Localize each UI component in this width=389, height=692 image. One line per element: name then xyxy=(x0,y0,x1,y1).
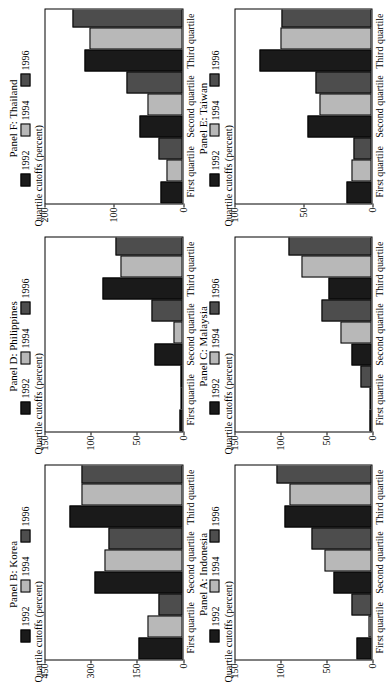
x-tick-label: First quartile xyxy=(372,367,385,432)
bar-1994 xyxy=(147,615,181,637)
x-tick-label: First quartile xyxy=(183,367,196,432)
bar-1994 xyxy=(89,27,181,49)
y-axis: 050100150 xyxy=(234,660,373,684)
x-tick-label: Third quartile xyxy=(183,236,196,301)
plot-area xyxy=(234,8,373,204)
bar-group xyxy=(45,71,182,137)
bar-1992 xyxy=(356,637,371,659)
panel-title: Panel F: Thailand xyxy=(6,8,18,228)
y-axis-title: Quartile cutoffs (percent) xyxy=(222,8,233,226)
legend-item: 1994 xyxy=(19,328,30,364)
y-axis-title: Quartile cutoffs (percent) xyxy=(222,464,233,682)
bar-group xyxy=(235,365,372,431)
y-tick-label: 50 xyxy=(321,435,331,445)
legend-label: 1992 xyxy=(209,150,220,170)
y-tick-label: 0 xyxy=(178,207,188,212)
legend-item: 1994 xyxy=(19,100,30,136)
bar-groups xyxy=(235,9,372,203)
x-tick-label: Second quartile xyxy=(183,529,196,594)
legend-swatch-1992 xyxy=(20,401,30,414)
x-tick-label: Second quartile xyxy=(372,301,385,366)
bar-group xyxy=(235,299,372,365)
bar-1996 xyxy=(108,527,182,549)
x-tick-label: Second quartile xyxy=(372,73,385,138)
bar-1994 xyxy=(319,93,371,115)
legend-item: 1994 xyxy=(209,328,220,364)
legend-swatch-1996 xyxy=(209,301,219,314)
x-tick-label: First quartile xyxy=(183,139,196,204)
x-tick-label: Third quartile xyxy=(372,464,385,529)
y-axis: 0150300450 xyxy=(44,660,183,684)
legend-swatch-1996 xyxy=(20,73,30,86)
x-axis-labels: First quartileSecond quartileThird quart… xyxy=(372,464,385,660)
y-tick-label: 0 xyxy=(367,435,377,440)
panel-panel-e-taiwan: Panel E: Taiwan199219941996Quartile cuto… xyxy=(196,4,386,232)
panel-title: Panel C: Malaysia xyxy=(196,236,208,456)
legend-swatch-1994 xyxy=(20,351,30,364)
x-axis-labels: First quartileSecond quartileThird quart… xyxy=(372,8,385,204)
bar-1992 xyxy=(139,115,181,137)
y-tick-label: 200 xyxy=(39,207,49,222)
y-tick-label: 50 xyxy=(131,435,141,445)
bar-1994 xyxy=(340,321,371,343)
legend-item: 1992 xyxy=(19,606,30,642)
bar-1994 xyxy=(147,93,182,115)
legend-item: 1994 xyxy=(209,100,220,136)
bar-1996 xyxy=(151,299,182,321)
bar-group xyxy=(45,527,182,593)
bar-1994 xyxy=(280,27,371,49)
legend-label: 1996 xyxy=(209,278,220,298)
legend: 199219941996 xyxy=(209,8,220,228)
bar-1994 xyxy=(289,483,371,505)
bar-1992 xyxy=(333,571,371,593)
legend-label: 1992 xyxy=(19,606,30,626)
six-panel-figure: Panel B: Korea199219941996Quartile cutof… xyxy=(0,0,389,692)
bar-1994 xyxy=(351,159,371,181)
plot-area xyxy=(44,8,183,204)
bar-1994 xyxy=(368,615,371,637)
bar-1996 xyxy=(276,464,371,483)
bar-1996 xyxy=(81,464,181,483)
y-tick-label: 50 xyxy=(321,663,331,673)
legend: 199219941996 xyxy=(19,236,30,456)
bar-1992 xyxy=(328,277,371,299)
bar-groups xyxy=(235,237,372,431)
bar-1992 xyxy=(154,343,181,365)
bar-1996 xyxy=(311,527,371,549)
y-axis: 050100150 xyxy=(234,432,373,456)
x-tick-label: Third quartile xyxy=(183,8,196,73)
y-tick-label: 100 xyxy=(275,435,285,450)
legend: 199219941996 xyxy=(19,8,30,228)
y-axis-title: Quartile cutoffs (percent) xyxy=(32,236,43,454)
plot-row: 0100200 xyxy=(44,8,183,228)
x-axis-labels: First quartileSecond quartileThird quart… xyxy=(183,236,196,432)
bar-group xyxy=(45,365,182,431)
bar-1996 xyxy=(315,71,371,93)
bar-1992 xyxy=(284,505,371,527)
legend-label: 1992 xyxy=(209,378,220,398)
y-axis: 0100200 xyxy=(44,204,183,228)
y-tick-label: 150 xyxy=(39,435,49,450)
y-tick-label: 100 xyxy=(229,207,239,222)
bar-1992 xyxy=(94,571,182,593)
y-axis: 050100 xyxy=(234,204,373,228)
legend-label: 1992 xyxy=(19,150,30,170)
y-tick-label: 50 xyxy=(298,207,308,217)
x-tick-label: Second quartile xyxy=(183,301,196,366)
legend-swatch-1994 xyxy=(209,579,219,592)
bar-1996 xyxy=(115,236,181,255)
bar-1992 xyxy=(160,181,181,203)
legend-swatch-1992 xyxy=(209,401,219,414)
bar-group xyxy=(235,464,372,527)
legend-swatch-1994 xyxy=(20,579,30,592)
legend-label: 1996 xyxy=(19,278,30,298)
bar-1992 xyxy=(138,637,181,659)
bar-group xyxy=(235,8,372,71)
legend-label: 1996 xyxy=(19,506,30,526)
legend-item: 1996 xyxy=(19,506,30,542)
x-tick-label: Third quartile xyxy=(183,464,196,529)
bar-1996 xyxy=(321,299,371,321)
bar-group xyxy=(235,71,372,137)
y-tick-label: 150 xyxy=(229,663,239,678)
legend-item: 1992 xyxy=(209,150,220,186)
